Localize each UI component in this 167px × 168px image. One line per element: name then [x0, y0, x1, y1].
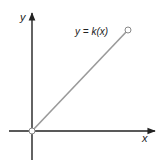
- x-axis-label: x: [141, 132, 148, 144]
- function-graph: y x y = k(x): [0, 0, 167, 168]
- curve-k: [32, 30, 128, 131]
- y-axis-label: y: [19, 11, 27, 23]
- open-endpoint-origin: [29, 128, 35, 134]
- curve-label: y = k(x): [74, 26, 108, 37]
- open-endpoint-end: [125, 27, 131, 33]
